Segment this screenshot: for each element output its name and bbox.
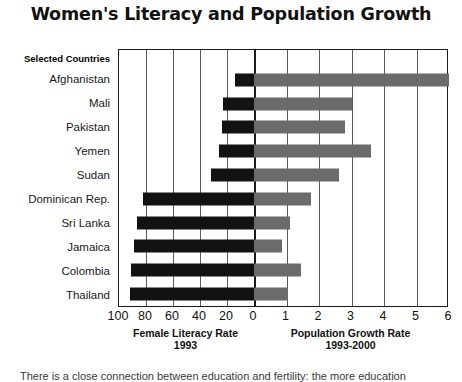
tick-label-literacy-60: 60	[165, 309, 179, 323]
category-label: Pakistan	[0, 115, 115, 139]
bar-female-literacy	[211, 169, 254, 182]
bar-population-growth	[254, 121, 345, 134]
chart-row	[119, 235, 447, 259]
category-label: Jamaica	[0, 235, 115, 259]
category-label: Sudan	[0, 163, 115, 187]
left-axis-period: 1993	[118, 339, 253, 351]
category-label: Mali	[0, 91, 115, 115]
category-label: Colombia	[0, 259, 115, 283]
tick-label-growth-6: 6	[445, 309, 452, 323]
tick-label-literacy-100: 100	[108, 309, 129, 323]
tick-label-growth-2: 2	[315, 309, 322, 323]
bar-female-literacy	[219, 145, 254, 158]
chart-row	[119, 68, 447, 92]
bar-female-literacy	[223, 97, 254, 110]
bar-female-literacy	[131, 264, 254, 277]
chart-row	[119, 258, 447, 282]
chart-row	[119, 211, 447, 235]
left-axis-caption: Female Literacy Rate 1993	[118, 327, 253, 351]
plot-area	[118, 49, 448, 307]
bar-female-literacy	[235, 73, 254, 86]
bar-population-growth	[254, 192, 311, 205]
bar-population-growth	[254, 73, 449, 86]
bar-female-literacy	[222, 121, 254, 134]
right-axis-caption: Population Growth Rate 1993-2000	[253, 327, 448, 351]
tick-label-growth-1: 1	[282, 309, 289, 323]
tick-label-growth-4: 4	[380, 309, 387, 323]
chart-container: Women's Literacy and Population Growth S…	[0, 0, 462, 382]
left-axis-title: Female Literacy Rate	[118, 327, 253, 339]
bar-population-growth	[254, 169, 339, 182]
bar-female-literacy	[130, 288, 254, 301]
bar-population-growth	[254, 288, 288, 301]
right-axis-title: Population Growth Rate	[253, 327, 448, 339]
category-label: Thailand	[0, 283, 115, 307]
chart-title: Women's Literacy and Population Growth	[0, 4, 462, 24]
category-label-column: Selected Countries AfghanistanMaliPakist…	[0, 49, 115, 307]
tick-label-growth-5: 5	[412, 309, 419, 323]
category-label: Dominican Rep.	[0, 187, 115, 211]
bar-female-literacy	[137, 216, 254, 229]
bar-female-literacy	[134, 240, 254, 253]
bar-population-growth	[254, 216, 290, 229]
tick-label-literacy-40: 40	[192, 309, 206, 323]
bar-rows	[119, 50, 447, 306]
category-label: Yemen	[0, 139, 115, 163]
category-label: Sri Lanka	[0, 211, 115, 235]
chart-row	[119, 282, 447, 306]
tick-label-literacy-0: 0	[250, 309, 257, 323]
x-axis-tick-labels: 100806040200123456	[118, 309, 448, 325]
bar-population-growth	[254, 97, 352, 110]
chart-row	[119, 116, 447, 140]
bar-female-literacy	[143, 192, 254, 205]
chart-row	[119, 92, 447, 116]
chart-row	[119, 187, 447, 211]
right-axis-period: 1993-2000	[253, 339, 448, 351]
category-label: Afghanistan	[0, 67, 115, 91]
chart-row	[119, 139, 447, 163]
tick-label-growth-3: 3	[347, 309, 354, 323]
tick-label-literacy-20: 20	[219, 309, 233, 323]
category-column-header: Selected Countries	[0, 49, 115, 67]
chart-row	[119, 163, 447, 187]
bar-population-growth	[254, 145, 371, 158]
plot-header-spacer	[119, 50, 447, 68]
bar-population-growth	[254, 264, 301, 277]
bar-population-growth	[254, 240, 282, 253]
footer-note: There is a close connection between educ…	[20, 370, 450, 382]
tick-label-literacy-80: 80	[138, 309, 152, 323]
